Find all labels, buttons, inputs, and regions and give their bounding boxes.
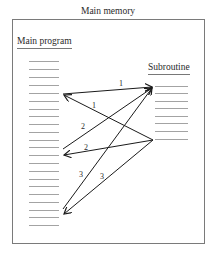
subroutine-label: Subroutine (148, 62, 190, 72)
return-arrow-3 (64, 140, 153, 214)
call-arrow-1 (63, 87, 152, 94)
call-label-3: 3 (79, 170, 83, 179)
main-program-label: Main program (17, 36, 72, 46)
return-label-1: 1 (92, 101, 96, 110)
main-memory-title: Main memory (81, 6, 135, 16)
call-label-2: 2 (81, 122, 85, 131)
main-memory-diagram: Main memory Main program Subroutine (0, 0, 216, 253)
return-label-2: 2 (84, 143, 88, 152)
main-program-lines (29, 62, 59, 226)
call-arrow-3 (63, 88, 152, 209)
call-arrow-2 (63, 88, 152, 149)
return-label-3: 3 (100, 172, 104, 181)
call-label-1: 1 (119, 79, 123, 88)
subroutine-lines (155, 87, 188, 140)
